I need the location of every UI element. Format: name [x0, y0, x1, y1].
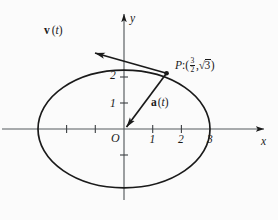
point-p-label: P:(32,√3)	[175, 57, 215, 73]
y-axis	[120, 14, 128, 200]
point-p-fraction: 32	[190, 57, 196, 73]
origin-label: O	[111, 132, 120, 144]
point-p-paren-close: )	[211, 59, 215, 71]
acceleration-vector-symbol: a	[151, 96, 157, 108]
ellipse-vector-figure: y x O 1 2 3 1 2 v(t) a(t) P:(32,√3)	[0, 0, 278, 220]
y-tick-label-2: 2	[110, 70, 116, 82]
acceleration-vector-label: a(t)	[151, 97, 169, 109]
x-tick-label-2: 2	[178, 134, 184, 146]
x-axis-label: x	[261, 136, 266, 148]
velocity-vector-symbol: v	[44, 24, 50, 36]
acceleration-paren-close: )	[165, 96, 169, 108]
figure-canvas	[0, 0, 278, 220]
point-p-radical: √3	[199, 59, 211, 72]
fraction-denominator: 2	[190, 66, 196, 74]
x-axis	[2, 125, 264, 133]
x-tick-label-3: 3	[207, 134, 213, 146]
y-axis-label: y	[130, 13, 135, 25]
x-tick-label-1: 1	[150, 134, 156, 146]
velocity-vector-label: v(t)	[44, 25, 63, 37]
point-p-paren-open: (	[185, 59, 189, 71]
point-p-name: P	[175, 59, 182, 71]
velocity-paren-close: )	[59, 24, 63, 36]
y-tick-label-1: 1	[110, 98, 116, 110]
point-p-marker	[164, 71, 169, 76]
